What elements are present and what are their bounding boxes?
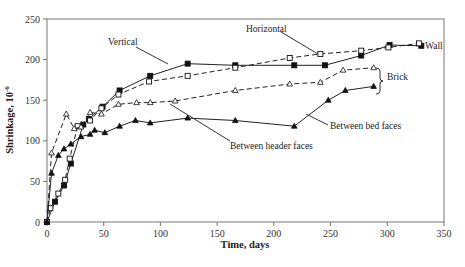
x-tick-label: 100 bbox=[153, 228, 168, 239]
y-tick-label: 150 bbox=[25, 95, 40, 106]
x-tick-label: 200 bbox=[266, 228, 281, 239]
y-tick-label: 200 bbox=[25, 54, 40, 65]
y-tick-label: 250 bbox=[25, 14, 40, 25]
label-wall: Wall bbox=[425, 41, 443, 51]
svg-text:Shrinkage, 10-6: Shrinkage, 10-6 bbox=[3, 86, 15, 154]
label-vertical: Vertical bbox=[108, 37, 138, 47]
label-brick: Brick bbox=[387, 72, 408, 82]
y-tick-label: 0 bbox=[35, 217, 40, 228]
pointer-horizontal bbox=[281, 32, 318, 54]
x-tick-label: 50 bbox=[99, 228, 109, 239]
y-tick-label: 50 bbox=[30, 176, 40, 187]
y-axis-title: Shrinkage, 10-6 bbox=[3, 86, 15, 154]
series-group bbox=[44, 41, 424, 225]
x-axis-title: Time, days bbox=[221, 239, 270, 250]
brick-brace bbox=[376, 68, 383, 94]
y-axis: 050100150200250 bbox=[25, 14, 47, 228]
x-tick-label: 0 bbox=[45, 228, 50, 239]
label-horizontal: Horizontal bbox=[246, 24, 287, 34]
pointer-bed bbox=[306, 114, 328, 125]
label-bed-faces: Between bed faces bbox=[330, 121, 402, 131]
pointer-header bbox=[170, 104, 230, 141]
x-axis: 050100150200250300350 bbox=[45, 222, 452, 239]
x-tick-label: 250 bbox=[323, 228, 338, 239]
x-tick-label: 150 bbox=[210, 228, 225, 239]
series-between-header-faces bbox=[44, 65, 376, 224]
x-tick-label: 350 bbox=[437, 228, 452, 239]
pointer-vertical bbox=[136, 47, 168, 64]
x-tick-label: 300 bbox=[380, 228, 395, 239]
shrinkage-chart: 050100150200250 050100150200250300350 Ti… bbox=[0, 0, 465, 267]
y-tick-label: 100 bbox=[25, 135, 40, 146]
label-header-faces: Between header faces bbox=[230, 141, 313, 151]
series-between-bed-faces bbox=[44, 83, 376, 224]
